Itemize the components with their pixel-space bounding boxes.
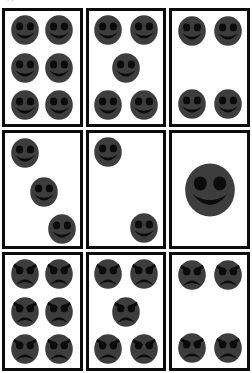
happy-face-icon [47,214,77,244]
happy-face-icon [111,53,141,83]
card-grid [0,7,252,373]
card-row-2-col-1[interactable] [2,130,83,249]
sad-face-icon [10,259,40,289]
happy-face-icon [183,163,237,217]
happy-face-icon [93,90,123,120]
sad-face-icon [93,334,123,364]
sad-face-icon [213,333,243,363]
sad-face-icon [177,260,207,290]
sad-face-icon [44,259,74,289]
happy-face-icon [10,53,40,83]
sad-face-icon [111,297,141,327]
happy-face-icon [129,213,159,243]
sad-face-icon [129,334,159,364]
sad-face-icon [10,334,40,364]
happy-face-icon [44,90,74,120]
happy-face-icon [177,89,207,119]
happy-face-icon [129,90,159,120]
happy-face-icon [213,89,243,119]
card-row-1-col-3[interactable] [169,8,250,127]
card-row-1-col-1[interactable] [2,8,83,127]
happy-face-icon [129,15,159,45]
card-row-1-col-2[interactable] [86,8,167,127]
card-row-3-col-2[interactable] [86,252,167,371]
clipped-header-text: clipped line of text [0,0,252,6]
sad-face-icon [213,260,243,290]
sad-face-icon [10,297,40,327]
happy-face-icon [213,16,243,46]
sad-face-icon [129,259,159,289]
sad-face-icon [44,334,74,364]
card-row-2-col-3[interactable] [169,130,250,249]
sad-face-icon [93,259,123,289]
happy-face-icon [44,53,74,83]
worksheet-page: clipped line of text [0,0,252,373]
sad-face-icon [44,297,74,327]
happy-face-icon [10,138,40,168]
happy-face-icon [93,15,123,45]
sad-face-icon [177,333,207,363]
card-row-3-col-3[interactable] [169,252,250,371]
happy-face-icon [44,15,74,45]
happy-face-icon [29,177,59,207]
happy-face-icon [10,90,40,120]
card-row-3-col-1[interactable] [2,252,83,371]
happy-face-icon [93,137,123,167]
card-row-2-col-2[interactable] [86,130,167,249]
happy-face-icon [177,16,207,46]
happy-face-icon [10,15,40,45]
